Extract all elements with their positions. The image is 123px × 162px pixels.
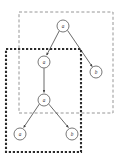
graph-figure: a a b a a b: [0, 0, 123, 162]
graph-canvas: a a b a a b: [0, 0, 123, 162]
graph-node-n1[interactable]: a: [38, 56, 50, 68]
graph-node-n3[interactable]: a: [38, 94, 50, 106]
graph-node-n0[interactable]: a: [57, 20, 69, 32]
node-label-n3: a: [43, 97, 46, 103]
graph-node-n5[interactable]: b: [66, 128, 78, 140]
graph-node-n2[interactable]: b: [90, 66, 102, 78]
graph-node-n4[interactable]: a: [14, 128, 26, 140]
edge-n3-n4: [24, 104, 40, 127]
edge-n0-n1: [47, 31, 60, 55]
edge-n3-n5: [49, 104, 69, 127]
node-label-n2: b: [95, 69, 98, 75]
node-label-n1: a: [43, 59, 46, 65]
node-label-n4: a: [19, 131, 22, 137]
node-label-n0: a: [62, 23, 65, 29]
node-label-n5: b: [71, 131, 74, 137]
